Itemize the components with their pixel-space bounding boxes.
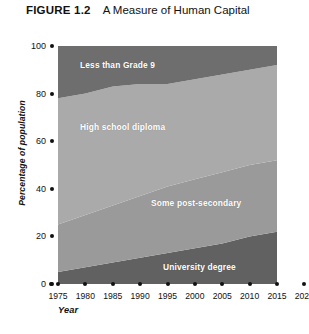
origin-dot — [49, 282, 53, 286]
x-tick-label-2015: 2015 — [264, 290, 290, 302]
x-tick-label-1980: 1980 — [72, 290, 98, 302]
x-tick-dot-2020 — [302, 282, 306, 286]
y-tick-label: 60 — [36, 135, 46, 147]
x-tick-dot-2015 — [275, 282, 279, 286]
x-tick-label-1975: 1975 — [45, 290, 71, 302]
y-tick-dot — [50, 139, 54, 143]
figure-title-text: A Measure of Human Capital — [103, 3, 263, 18]
figure-root: FIGURE 1.2 A Measure of Human Capital Pe… — [0, 0, 309, 334]
stacked-area-chart — [58, 46, 277, 284]
x-tick-label-2020: 2020 — [291, 290, 309, 302]
band-label-1: High school diploma — [80, 122, 165, 132]
x-tick-dot-1980 — [83, 282, 87, 286]
band-label-2: Some post-secondary — [151, 198, 241, 208]
y-tick-label: 100 — [31, 40, 46, 52]
x-tick-dot-1985 — [111, 282, 115, 286]
y-tick-dot — [50, 187, 54, 191]
x-axis-title: Year — [58, 305, 78, 315]
y-tick-label: 80 — [36, 88, 46, 100]
y-tick-40: 40 — [36, 183, 58, 195]
footnote-sliver — [24, 328, 286, 334]
band-label-3: University degree — [163, 262, 236, 272]
x-tick-label-2005: 2005 — [209, 290, 235, 302]
figure-title-block: FIGURE 1.2 A Measure of Human Capital — [26, 3, 296, 18]
y-tick-dot — [50, 44, 54, 48]
y-tick-dot — [50, 234, 54, 238]
y-tick-80: 80 — [36, 88, 58, 100]
x-tick-label-1995: 1995 — [155, 290, 181, 302]
x-tick-dot-1975 — [56, 282, 60, 286]
band-label-0: Less than Grade 9 — [80, 60, 155, 70]
x-tick-dot-1995 — [166, 282, 170, 286]
x-tick-dot-2010 — [248, 282, 252, 286]
y-axis-title: Percentage of population — [17, 83, 27, 223]
y-tick-20: 20 — [36, 230, 58, 242]
x-tick-label-1990: 1990 — [127, 290, 153, 302]
y-tick-60: 60 — [36, 135, 58, 147]
x-tick-label-2000: 2000 — [182, 290, 208, 302]
x-axis: 1975198019851990199520002005201020152020 — [0, 282, 309, 322]
x-tick-dot-1990 — [138, 282, 142, 286]
x-tick-dot-2000 — [193, 282, 197, 286]
y-tick-100: 100 — [31, 40, 58, 52]
x-tick-label-1985: 1985 — [100, 290, 126, 302]
y-tick-label: 20 — [36, 230, 46, 242]
y-tick-label: 40 — [36, 183, 46, 195]
x-tick-label-2010: 2010 — [237, 290, 263, 302]
x-tick-dot-2005 — [220, 282, 224, 286]
chart-plot-area: Less than Grade 9High school diplomaSome… — [58, 46, 277, 284]
y-tick-dot — [50, 92, 54, 96]
